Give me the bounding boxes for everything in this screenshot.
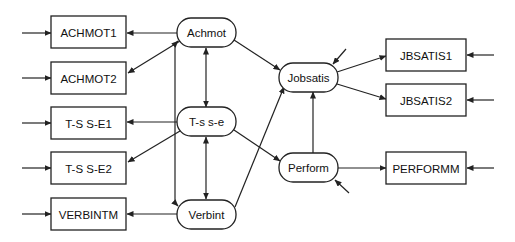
node-label: JBSATIS1 bbox=[400, 50, 452, 62]
node-label: Jobsatis bbox=[287, 72, 329, 84]
path-achmot-jobsatis bbox=[234, 40, 280, 70]
node-label: ACHMOT2 bbox=[60, 73, 116, 85]
node-verbint: Verbint bbox=[177, 200, 236, 229]
disturbance-arrow-jobsatis bbox=[333, 49, 346, 64]
path-verbint-jobsatis bbox=[235, 87, 284, 207]
node-label: T-S S-E1 bbox=[65, 118, 112, 130]
node-label: VERBINTM bbox=[59, 209, 118, 221]
node-label: T-s s-e bbox=[189, 116, 224, 128]
node-label: T-S S-E2 bbox=[65, 163, 112, 175]
node-label: PERFORMM bbox=[392, 163, 459, 175]
path-achmot-achmot2 bbox=[128, 41, 180, 73]
node-label: ACHMOT1 bbox=[60, 27, 116, 39]
node-jobsatis: Jobsatis bbox=[279, 63, 338, 92]
node-tsse1: T-S S-E1 bbox=[51, 107, 126, 139]
node-jbsatis2: JBSATIS2 bbox=[386, 84, 466, 116]
node-label: JBSATIS2 bbox=[400, 95, 452, 107]
disturbance-arrow-perform bbox=[335, 180, 349, 193]
node-performm: PERFORMM bbox=[386, 152, 466, 184]
path-diagram: ACHMOT1 ACHMOT2 T-S S-E1 T-S S-E2 VERBIN… bbox=[0, 0, 515, 242]
node-label: Achmot bbox=[187, 27, 227, 39]
node-tsse: T-s s-e bbox=[177, 107, 236, 136]
path-tsse-perform bbox=[234, 130, 280, 161]
node-label: Perform bbox=[288, 162, 329, 174]
path-tsse-tsse2 bbox=[128, 131, 180, 162]
node-achmot: Achmot bbox=[177, 18, 236, 47]
node-label: Verbint bbox=[189, 209, 226, 221]
node-perform: Perform bbox=[279, 153, 338, 182]
path-jobsatis-jbsatis1 bbox=[337, 56, 386, 72]
node-tsse2: T-S S-E2 bbox=[51, 152, 126, 184]
path-jobsatis-jbsatis2 bbox=[337, 84, 386, 99]
node-achmot1: ACHMOT1 bbox=[51, 16, 126, 48]
node-achmot2: ACHMOT2 bbox=[51, 62, 126, 94]
node-jbsatis1: JBSATIS1 bbox=[386, 39, 466, 71]
node-verbintm: VERBINTM bbox=[51, 198, 126, 230]
